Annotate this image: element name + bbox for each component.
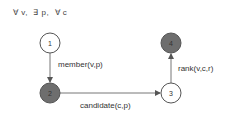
node-1: 1 [40,33,60,53]
edge-label-member: member(v,p) [58,60,103,69]
graph-canvas: 1 2 3 4 [0,0,231,117]
svg-text:2: 2 [48,90,52,97]
svg-text:4: 4 [169,40,173,47]
node-2: 2 [40,83,60,103]
edge-label-candidate: candidate(c,p) [80,101,131,110]
node-3: 3 [161,83,181,103]
edge-label-rank: rank(v,c,r) [178,64,213,73]
svg-text:1: 1 [48,40,52,47]
svg-text:3: 3 [169,90,173,97]
node-4: 4 [161,33,181,53]
